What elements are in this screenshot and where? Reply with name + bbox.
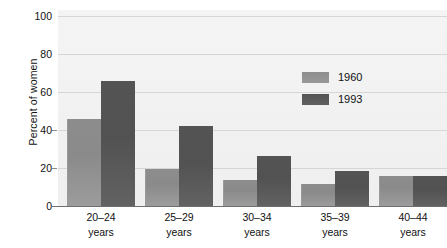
x-label-35-39-range: 35–39 — [296, 210, 374, 225]
x-label-40-44-unit: years — [374, 225, 447, 240]
x-label-30-34: 30–34 years — [218, 210, 296, 239]
legend-label-1993: 1993 — [338, 94, 362, 105]
x-label-40-44-range: 40–44 — [374, 210, 447, 225]
y-tick-mark-20 — [52, 168, 57, 169]
y-tick-label-60: 60 — [26, 87, 52, 98]
x-label-35-39: 35–39 years — [296, 210, 374, 239]
x-label-25-29-unit: years — [140, 225, 218, 240]
x-label-25-29-range: 25–29 — [140, 210, 218, 225]
legend-item-1993: 1993 — [302, 88, 412, 110]
y-tick-label-0: 0 — [26, 201, 52, 212]
x-label-20-24-unit: years — [62, 225, 140, 240]
y-tick-label-20: 20 — [26, 163, 52, 174]
bar-1960-30-34 — [223, 180, 258, 206]
bar-1993-20-24 — [101, 81, 135, 206]
x-label-30-34-range: 30–34 — [218, 210, 296, 225]
x-label-20-24-range: 20–24 — [62, 210, 140, 225]
y-tick-label-80: 80 — [26, 49, 52, 60]
legend-swatch-1993-icon — [302, 94, 329, 105]
bar-1960-40-44 — [379, 176, 414, 206]
x-label-30-34-unit: years — [218, 225, 296, 240]
x-axis-category-labels: 20–24 years 25–29 years 30–34 years 35–3… — [58, 210, 447, 248]
x-label-40-44: 40–44 years — [374, 210, 447, 239]
x-label-35-39-unit: years — [296, 225, 374, 240]
bar-1993-40-44 — [413, 176, 447, 206]
bar-1960-20-24 — [67, 119, 102, 206]
y-tick-mark-40 — [52, 130, 57, 131]
legend-swatch-1960-icon — [302, 72, 329, 83]
x-label-20-24: 20–24 years — [62, 210, 140, 239]
legend-item-1960: 1960 — [302, 66, 412, 88]
y-tick-label-100: 100 — [26, 11, 52, 22]
bar-1960-25-29 — [145, 169, 180, 206]
legend: 1960 1993 — [302, 66, 412, 110]
bar-1993-35-39 — [335, 171, 369, 206]
bar-1960-35-39 — [301, 184, 336, 206]
x-axis-line — [52, 206, 447, 207]
bar-1993-25-29 — [179, 126, 213, 206]
legend-label-1960: 1960 — [338, 72, 362, 83]
bar-1993-30-34 — [257, 156, 291, 206]
x-label-25-29: 25–29 years — [140, 210, 218, 239]
bar-chart: Percent of women 100 80 60 40 20 0 — [0, 0, 447, 248]
y-axis-tick-labels: 100 80 60 40 20 0 — [24, 0, 52, 248]
y-tick-label-40: 40 — [26, 125, 52, 136]
